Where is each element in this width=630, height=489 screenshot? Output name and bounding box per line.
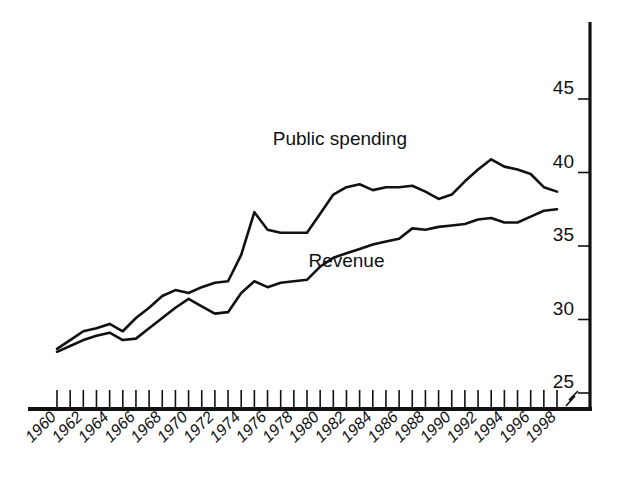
y-tick-label-35: 35 <box>553 224 574 245</box>
series-label-revenue: Revenue <box>308 250 384 271</box>
y-tick-label-30: 30 <box>553 298 574 319</box>
x-tick-label-1998: 1998 <box>522 408 559 445</box>
axis-break-squiggle-icon <box>566 391 578 406</box>
series-line-public-spending <box>57 159 557 349</box>
line-chart: 2530354045 19601962196419661968197019721… <box>0 0 630 489</box>
y-tick-label-25: 25 <box>553 371 574 392</box>
y-tick-label-45: 45 <box>553 77 574 98</box>
y-tick-label-40: 40 <box>553 151 574 172</box>
axes <box>28 22 592 409</box>
data-series-group <box>57 159 557 352</box>
series-label-public-spending: Public spending <box>273 128 407 149</box>
chart-canvas: 2530354045 19601962196419661968197019721… <box>0 0 630 489</box>
x-axis-tick-labels: 1960196219641966196819701972197419761978… <box>22 408 559 445</box>
y-axis-tick-labels: 2530354045 <box>553 77 574 392</box>
x-axis-ticks <box>57 390 557 407</box>
axis-break-marker <box>566 391 578 406</box>
series-annotations: Public spendingRevenue <box>273 128 407 271</box>
